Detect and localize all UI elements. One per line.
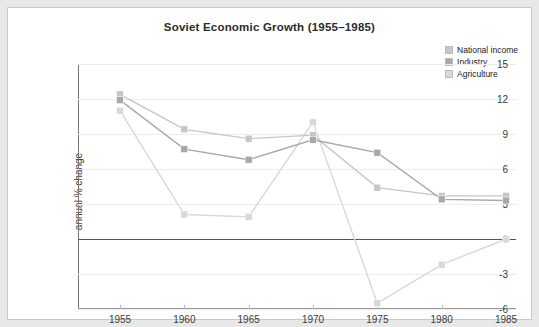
data-point [117, 107, 124, 114]
data-point [438, 196, 445, 203]
x-tick-label: 1970 [288, 314, 338, 325]
data-point [181, 126, 188, 133]
data-point [245, 156, 252, 163]
data-point [117, 97, 124, 104]
chart-plate: Soviet Economic Growth (1955–1985) Natio… [7, 7, 532, 320]
data-point [181, 146, 188, 153]
data-point [503, 236, 510, 243]
x-tick-label: 1965 [224, 314, 274, 325]
series-layer [64, 58, 516, 309]
data-point [374, 149, 381, 156]
series-line-industry [120, 100, 506, 200]
legend-swatch-national-income [445, 46, 453, 54]
legend-item-national-income: National income [445, 44, 518, 56]
x-tick-label: 1985 [481, 314, 531, 325]
data-point [181, 211, 188, 218]
x-tick-label: 1960 [159, 314, 209, 325]
data-point [310, 136, 317, 143]
data-point [245, 213, 252, 220]
data-point [310, 119, 317, 126]
data-point [374, 184, 381, 191]
data-point [503, 197, 510, 204]
data-point [438, 261, 445, 268]
x-tick-label: 1975 [352, 314, 402, 325]
plot-area: annual % change 15129630-3-6 19551960196… [64, 58, 516, 309]
data-point [374, 300, 381, 307]
page-title: Soviet Economic Growth (1955–1985) [8, 21, 531, 33]
image-frame: Soviet Economic Growth (1955–1985) Natio… [0, 0, 539, 327]
gridline [78, 309, 516, 310]
x-tick-label: 1980 [417, 314, 467, 325]
data-point [245, 135, 252, 142]
x-tick-label: 1955 [95, 314, 145, 325]
legend-label-national-income: National income [457, 44, 518, 56]
